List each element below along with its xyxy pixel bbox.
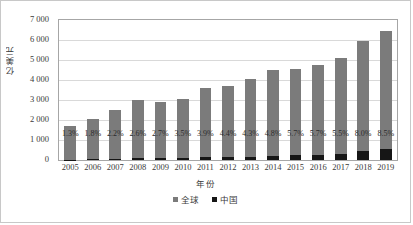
- bar-group[interactable]: [109, 19, 121, 160]
- bar-segment-global[interactable]: [290, 69, 302, 160]
- bar-data-label: 1.8%: [84, 130, 101, 138]
- y-axis-tick-label: 6 000: [5, 35, 49, 44]
- bar-stack[interactable]: [335, 58, 347, 160]
- bar-group[interactable]: [222, 19, 234, 160]
- bar-group[interactable]: [267, 19, 279, 160]
- bar-data-label: 2.2%: [107, 130, 124, 138]
- bar-segment-global[interactable]: [245, 79, 257, 160]
- x-axis-tick-label: 2016: [307, 163, 330, 172]
- bar-data-label: 8.5%: [377, 130, 394, 138]
- bar-data-label: 4.8%: [265, 130, 282, 138]
- x-axis-tick-label: 2015: [284, 163, 307, 172]
- legend-item[interactable]: 中国: [212, 193, 239, 205]
- bar-segment-global[interactable]: [200, 88, 212, 160]
- bar-segment-china[interactable]: [335, 154, 347, 160]
- bar-segment-global[interactable]: [357, 41, 369, 160]
- bar-segment-china[interactable]: [222, 157, 234, 160]
- y-axis-tick-label: 4 000: [5, 75, 49, 84]
- bar-segment-global[interactable]: [267, 70, 279, 160]
- x-axis-tick-label: 2017: [329, 163, 352, 172]
- x-axis-tick-label: 2011: [194, 163, 217, 172]
- x-axis-tick-labels: 2005200620072008200920102011201220132014…: [59, 163, 397, 175]
- y-axis-tick-label: 5 000: [5, 55, 49, 64]
- x-axis-tick-label: 2014: [262, 163, 285, 172]
- bar-data-label: 8.0%: [355, 130, 372, 138]
- bar-group[interactable]: [335, 19, 347, 160]
- bar-stack[interactable]: [222, 86, 234, 160]
- bar-stack[interactable]: [380, 31, 392, 160]
- bar-stack[interactable]: [245, 79, 257, 160]
- legend-label: 中国: [220, 193, 239, 205]
- bar-segment-china[interactable]: [290, 155, 302, 160]
- y-axis-tick-label: 7 000: [5, 15, 49, 24]
- bar-data-label: 5.5%: [332, 130, 349, 138]
- legend-swatch-icon: [173, 197, 178, 202]
- bar-segment-china[interactable]: [177, 158, 189, 160]
- x-axis-title: 年份: [1, 177, 410, 189]
- bar-segment-china[interactable]: [380, 149, 392, 160]
- bar-group[interactable]: [132, 19, 144, 160]
- bar-data-label: 3.9%: [197, 130, 214, 138]
- x-axis-tick-label: 2013: [239, 163, 262, 172]
- bar-data-label: 1.3%: [62, 130, 79, 138]
- bar-data-label: 3.5%: [175, 130, 192, 138]
- bar-group[interactable]: [200, 19, 212, 160]
- bar-segment-china[interactable]: [312, 155, 324, 160]
- bar-segment-china[interactable]: [200, 157, 212, 160]
- bar-group[interactable]: [380, 19, 392, 160]
- bar-group[interactable]: [155, 19, 167, 160]
- bar-data-label: 4.4%: [220, 130, 237, 138]
- y-axis-tick-label: 1 000: [5, 135, 49, 144]
- bar-segment-global[interactable]: [335, 58, 347, 160]
- bar-stack[interactable]: [200, 88, 212, 160]
- bar-segment-global[interactable]: [222, 86, 234, 160]
- x-axis-tick-label: 2019: [374, 163, 397, 172]
- bar-stack[interactable]: [267, 70, 279, 160]
- x-axis-tick-label: 2008: [127, 163, 150, 172]
- chart-legend: 全球中国: [1, 193, 410, 205]
- y-axis-tick-label: 0: [5, 155, 49, 164]
- bar-group[interactable]: [312, 19, 324, 160]
- bar-segment-china[interactable]: [267, 156, 279, 160]
- bar-group[interactable]: [64, 19, 76, 160]
- bar-segment-global[interactable]: [380, 31, 392, 160]
- x-axis-tick-label: 2010: [172, 163, 195, 172]
- bar-group[interactable]: [290, 19, 302, 160]
- bar-stack[interactable]: [87, 119, 99, 160]
- bar-segment-china[interactable]: [109, 159, 121, 160]
- bar-segment-china[interactable]: [132, 158, 144, 160]
- bar-stack[interactable]: [312, 65, 324, 160]
- bar-stack[interactable]: [357, 41, 369, 160]
- bar-segment-china[interactable]: [357, 151, 369, 161]
- legend-label: 全球: [181, 193, 200, 205]
- bar-data-label: 5.7%: [287, 130, 304, 138]
- bar-data-label: 5.7%: [310, 130, 327, 138]
- bar-data-label: 2.7%: [152, 130, 169, 138]
- y-axis-tick-label: 3 000: [5, 95, 49, 104]
- x-axis-tick-label: 2009: [149, 163, 172, 172]
- bar-segment-china[interactable]: [245, 157, 257, 160]
- bar-segment-global[interactable]: [312, 65, 324, 160]
- chart-container: 亿美元 7 0006 0005 0004 0003 0002 0001 0000…: [0, 0, 411, 223]
- legend-swatch-icon: [212, 197, 217, 202]
- bar-segment-china[interactable]: [155, 158, 167, 160]
- bar-group[interactable]: [177, 19, 189, 160]
- y-axis-tick-label: 2 000: [5, 115, 49, 124]
- x-axis-tick-label: 2005: [59, 163, 82, 172]
- x-axis-tick-label: 2012: [217, 163, 240, 172]
- bar-stack[interactable]: [290, 69, 302, 160]
- bar-group[interactable]: [87, 19, 99, 160]
- x-axis-tick-label: 2006: [82, 163, 105, 172]
- bar-segment-china[interactable]: [87, 159, 99, 160]
- bars-layer: 1.3%1.8%2.2%2.6%2.7%3.5%3.9%4.4%4.3%4.8%…: [59, 19, 397, 160]
- bar-data-label: 2.6%: [130, 130, 147, 138]
- x-axis-tick-label: 2007: [104, 163, 127, 172]
- x-axis-tick-label: 2018: [352, 163, 375, 172]
- bar-group[interactable]: [245, 19, 257, 160]
- legend-item[interactable]: 全球: [173, 193, 200, 205]
- bar-data-label: 4.3%: [242, 130, 259, 138]
- bar-segment-global[interactable]: [87, 119, 99, 160]
- bar-group[interactable]: [357, 19, 369, 160]
